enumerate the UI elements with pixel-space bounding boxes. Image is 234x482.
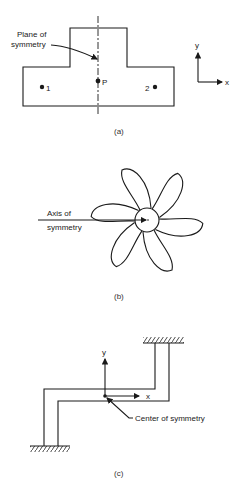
- y-axis-label: y: [195, 41, 199, 50]
- center-of-symmetry-label: Center of symmetry: [135, 414, 205, 423]
- caption-b: (b): [114, 292, 124, 301]
- figure-b: Axis of symmetry (b): [38, 169, 204, 301]
- symmetry-diagrams: Plane of symmetry P 1 2 y x (a): [0, 0, 234, 482]
- x-axis-label: x: [146, 392, 150, 401]
- point-1: [40, 85, 44, 89]
- figure-c: y x Center of symmetry (c): [30, 337, 205, 478]
- axis-label-line1: Axis of: [47, 209, 72, 218]
- figure-a: Plane of symmetry P 1 2 y x (a): [11, 16, 229, 136]
- y-axis-label: y: [102, 348, 106, 357]
- axis-label-line2: symmetry: [47, 223, 82, 232]
- caption-a: (a): [114, 127, 124, 136]
- frame-inner-edge: [58, 343, 169, 446]
- point-p-label: P: [102, 78, 107, 87]
- caption-c: (c): [114, 469, 124, 478]
- propeller-blade: [122, 169, 151, 210]
- plane-label-line1: Plane of: [17, 30, 47, 39]
- point-p: [96, 79, 101, 84]
- top-ground-hatch: [143, 337, 184, 343]
- bottom-ground-hatch: [30, 446, 70, 452]
- point-2-label: 2: [145, 84, 150, 93]
- plane-leader-arrow: [51, 45, 97, 59]
- center-point: [103, 394, 107, 398]
- axis-point: [147, 219, 149, 221]
- propeller-blade: [143, 230, 172, 271]
- frame-outer-edge: [44, 343, 155, 446]
- x-axis-label: x: [225, 78, 229, 87]
- point-2: [153, 85, 157, 89]
- point-1-label: 1: [46, 84, 51, 93]
- plane-label-line2: symmetry: [11, 40, 46, 49]
